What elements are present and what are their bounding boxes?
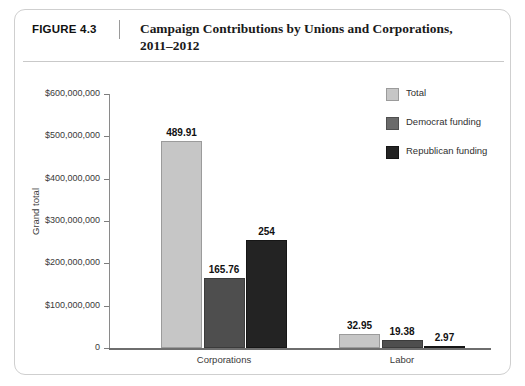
y-axis-tick-label: 0 xyxy=(15,342,100,352)
x-axis-category-labor: Labor xyxy=(319,354,485,365)
legend-label-republican: Republican funding xyxy=(406,145,487,156)
y-axis-tick-label: $500,000,000 xyxy=(15,130,100,140)
legend-swatch-total-icon xyxy=(386,88,399,101)
y-axis-tick-label: $200,000,000 xyxy=(15,257,100,267)
figure-header: FIGURE 4.3 Campaign Contributions by Uni… xyxy=(15,10,510,61)
bar-value-label: 254 xyxy=(237,226,296,237)
chart-plot-area: Grand total $600,000,000$500,000,000$400… xyxy=(15,61,512,375)
figure-title-line-2: 2011–2012 xyxy=(140,38,200,53)
y-axis-tick-label: $300,000,000 xyxy=(15,215,100,225)
bar-corporations-rep[interactable] xyxy=(246,240,287,348)
figure-container: FIGURE 4.3 Campaign Contributions by Uni… xyxy=(14,9,511,375)
y-axis-tick-label: $600,000,000 xyxy=(15,88,100,98)
bar-value-label: 165.76 xyxy=(195,264,254,275)
bar-labor-rep[interactable] xyxy=(424,346,465,348)
bar-value-label: 489.91 xyxy=(152,127,211,138)
y-axis-tick-labels: $600,000,000$500,000,000$400,000,000$300… xyxy=(15,61,100,375)
bar-value-label: 2.97 xyxy=(415,332,474,343)
legend-swatch-republican-icon xyxy=(386,146,399,159)
legend-label-democrat: Democrat funding xyxy=(406,116,481,127)
figure-number-label: FIGURE 4.3 xyxy=(32,23,97,35)
bar-corporations-total[interactable] xyxy=(161,141,202,348)
figure-title: Campaign Contributions by Unions and Cor… xyxy=(140,21,485,54)
y-axis-tick-label: $100,000,000 xyxy=(15,300,100,310)
x-axis-line xyxy=(109,348,491,350)
bar-corporations-dem[interactable] xyxy=(204,278,245,348)
y-axis-line xyxy=(109,94,110,349)
x-axis-category-corporations: Corporations xyxy=(141,354,307,365)
y-axis-tick-label: $400,000,000 xyxy=(15,173,100,183)
figure-title-line-1: Campaign Contributions by Unions and Cor… xyxy=(140,21,453,36)
header-vertical-divider xyxy=(119,20,120,39)
legend-swatch-democrat-icon xyxy=(386,117,399,130)
legend-label-total: Total xyxy=(406,87,426,98)
